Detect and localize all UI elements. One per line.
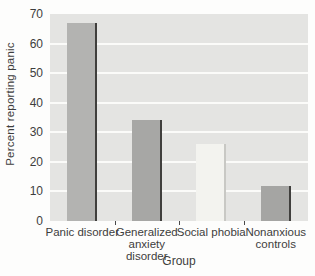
- y-tick-label-30: 30: [16, 126, 43, 138]
- x-axis-tick: [115, 221, 116, 225]
- x-axis-title: Group: [50, 254, 308, 268]
- x-label-panic-disorder: Panic disorder: [45, 226, 119, 238]
- panic-bar-chart-figure: Percent reporting panic 010203040506070 …: [0, 0, 315, 276]
- y-tick-label-60: 60: [16, 38, 43, 50]
- x-label-social-phobia: Social phobia: [174, 226, 248, 238]
- x-axis-tick: [179, 221, 180, 225]
- y-axis-title: Percent reporting panic: [4, 42, 16, 166]
- bar-generalized-anxiety-disorder: [132, 120, 162, 221]
- y-tick-label-50: 50: [16, 67, 43, 79]
- x-label-nonanxious-controls: Nonanxious controls: [239, 226, 313, 250]
- plot-area: [50, 14, 308, 221]
- bar-social-phobia: [196, 144, 226, 221]
- y-tick-label-10: 10: [16, 185, 43, 197]
- y-tick-label-20: 20: [16, 156, 43, 168]
- y-tick-label-70: 70: [16, 8, 43, 20]
- y-tick-label-0: 0: [16, 215, 43, 227]
- x-axis-tick: [244, 221, 245, 225]
- bar-panic-disorder: [67, 23, 97, 221]
- y-axis-ticks: 010203040506070: [16, 14, 46, 221]
- bar-nonanxious-controls: [261, 186, 291, 221]
- y-tick-label-40: 40: [16, 97, 43, 109]
